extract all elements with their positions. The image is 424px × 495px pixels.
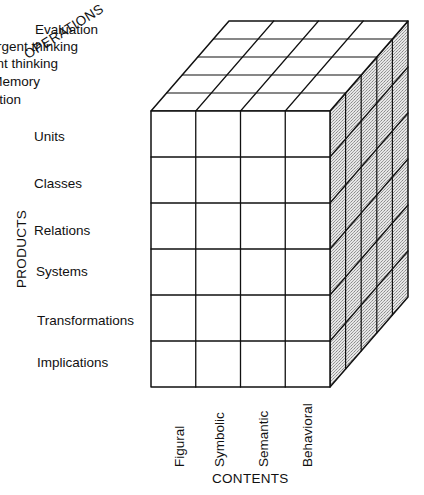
operation-label-evaluation: Evaluation [35, 23, 98, 37]
product-label-systems: Systems [36, 265, 88, 279]
operation-label-divergent-thinking: Divergent thinking [0, 57, 58, 71]
product-label-classes: Classes [34, 177, 82, 191]
product-label-implications: Implications [37, 356, 108, 370]
structure-of-intellect-diagram: OPERATIONS Evaluation Convergent thinkin… [0, 0, 424, 495]
content-label-behavioral: Behavioral [301, 403, 315, 467]
product-label-transformations: Transformations [37, 314, 134, 328]
contents-axis-title: CONTENTS [212, 472, 289, 486]
operation-label-memory: Memory [0, 75, 40, 89]
operation-label-cognition: Cognition [0, 93, 21, 107]
content-label-figural: Figural [173, 426, 187, 467]
front-face-products-by-contents [151, 111, 330, 387]
products-axis-title: PRODUCTS [15, 210, 29, 288]
operation-label-convergent-thinking: Convergent thinking [0, 40, 78, 54]
content-label-symbolic: Symbolic [213, 412, 227, 467]
content-label-semantic: Semantic [257, 411, 271, 467]
product-label-relations: Relations [34, 224, 90, 238]
product-label-units: Units [34, 130, 65, 144]
